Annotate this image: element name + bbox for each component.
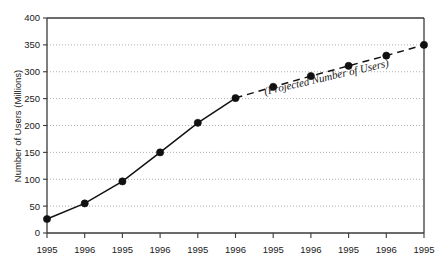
y-axis-tick-label: 350 bbox=[24, 39, 40, 50]
x-axis-tick-label: 1995 bbox=[187, 244, 208, 255]
series-actual-line bbox=[47, 98, 236, 219]
data-point-marker bbox=[157, 149, 164, 156]
y-axis-tick-label: 50 bbox=[29, 201, 40, 212]
x-axis-tick-label: 1996 bbox=[150, 244, 171, 255]
y-axis-tick-label: 150 bbox=[24, 147, 40, 158]
x-axis-tick-label: 1995 bbox=[112, 244, 133, 255]
plot-frame bbox=[47, 18, 424, 233]
actual-users-line bbox=[47, 98, 236, 219]
data-point-marker bbox=[194, 119, 201, 126]
x-axis-tick-label: 1995 bbox=[413, 244, 434, 255]
y-axis-tick-label: 0 bbox=[35, 227, 40, 238]
y-axis-tick-label: 100 bbox=[24, 174, 40, 185]
x-axis-tick-label: 1996 bbox=[376, 244, 397, 255]
y-axis-title: Number of Users (Millions) bbox=[12, 70, 23, 182]
data-point-marker bbox=[232, 94, 239, 101]
data-point-marker bbox=[119, 178, 126, 185]
chart-container: 050100150200250300350400 199519961995199… bbox=[0, 0, 444, 264]
data-point-marker bbox=[81, 200, 88, 207]
x-axis-tick-labels: 1995199619951996199519961995199619951996… bbox=[36, 244, 434, 255]
data-point-marker bbox=[420, 41, 427, 48]
y-axis-tick-label: 400 bbox=[24, 12, 40, 23]
line-chart: 050100150200250300350400 199519961995199… bbox=[0, 0, 444, 264]
projection-annotation-label: (Projected Number of Users) bbox=[263, 56, 391, 97]
y-axis-tick-label: 250 bbox=[24, 93, 40, 104]
y-axis-tick-labels: 050100150200250300350400 bbox=[24, 12, 40, 238]
x-axis-tick-label: 1996 bbox=[225, 244, 246, 255]
y-axis-tick-label: 300 bbox=[24, 66, 40, 77]
x-axis-tick-label: 1996 bbox=[300, 244, 321, 255]
y-axis-tick-label: 200 bbox=[24, 120, 40, 131]
x-axis-tick-label: 1995 bbox=[36, 244, 57, 255]
x-axis-tick-label: 1995 bbox=[338, 244, 359, 255]
data-point-marker bbox=[43, 215, 50, 222]
x-axis-ticks bbox=[47, 233, 424, 238]
x-axis-tick-label: 1996 bbox=[74, 244, 95, 255]
x-axis-tick-label: 1995 bbox=[263, 244, 284, 255]
